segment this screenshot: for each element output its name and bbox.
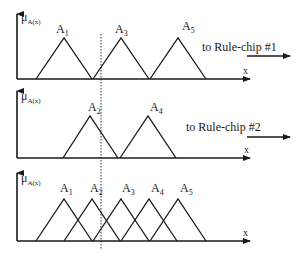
panel-1: μA(x) x A1 A3 A5 to Rule-chip #1 (17, 10, 290, 79)
x-axis-label: x (243, 65, 248, 76)
set-label-a3: A3 (115, 22, 128, 38)
membership-triangle-a2 (64, 199, 120, 241)
set-label-a4: A4 (151, 181, 164, 197)
membership-triangle-a5 (150, 38, 206, 79)
fuzzy-membership-diagram: μA(x) x A1 A3 A5 to Rule-chip #1 μA(x) x… (0, 0, 300, 256)
set-label-a2: A2 (88, 100, 101, 116)
y-axis-label: μA(x) (21, 89, 41, 105)
x-axis-label: x (243, 227, 248, 238)
set-label-a4: A4 (150, 100, 163, 116)
output-label-rule-chip-1: to Rule-chip #1 (202, 40, 277, 54)
panel-2: μA(x) x A2 A4 to Rule-chip #2 (17, 89, 290, 158)
membership-triangle-a4 (121, 199, 177, 241)
set-label-a2: A2 (90, 181, 103, 197)
set-label-a1: A1 (60, 181, 73, 197)
membership-triangle-a1 (36, 38, 92, 79)
membership-triangle-a4 (120, 116, 176, 158)
output-label-rule-chip-2: to Rule-chip #2 (186, 120, 261, 134)
set-label-a1: A1 (56, 22, 69, 38)
membership-triangle-a5 (150, 199, 206, 241)
membership-triangle-a1 (36, 199, 92, 241)
x-axis-label: x (244, 144, 249, 155)
membership-triangle-a2 (63, 116, 118, 158)
set-label-a5: A5 (180, 181, 193, 197)
y-axis-label: μA(x) (21, 10, 41, 26)
y-axis-label: μA(x) (21, 171, 41, 187)
set-label-a5: A5 (182, 19, 195, 35)
panel-3: μA(x) x A1 A2 A3 A4 A5 (17, 171, 250, 241)
set-label-a3: A3 (122, 181, 135, 197)
